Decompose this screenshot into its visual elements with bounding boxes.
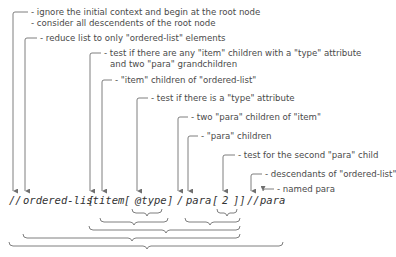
annotation-test-any-item-continued: and two "para" grandchildren (110, 59, 237, 69)
token-item: item (99, 194, 124, 206)
arrow-test-type (137, 98, 148, 191)
token-para-2: para (260, 194, 285, 206)
brace-ordered-list-predicate (89, 226, 240, 233)
token-open-bracket-1: [ (88, 194, 94, 206)
arrow-para-children (188, 136, 198, 191)
brace-ordered-list-step (23, 234, 240, 241)
annotation-all-descendents: - consider all descendents of the root n… (31, 18, 216, 28)
brace-whole-expression (9, 242, 283, 249)
arrow-test-any-item (90, 53, 101, 191)
annotation-test-type: - test if there is a "type" attribute (151, 93, 295, 103)
brace-item-predicate (100, 218, 168, 225)
brace-two (217, 209, 237, 216)
arrow-reduce-list (25, 38, 37, 191)
token-slash: / (177, 194, 183, 206)
token-open-bracket-2: [ (124, 194, 130, 206)
annotation-reduce-list: - reduce list to only "ordered-list" ele… (40, 33, 225, 43)
token-desc-slashes: // (247, 194, 260, 206)
brace-at-type (132, 209, 162, 216)
arrow-item-children (102, 80, 112, 191)
annotation-two-para: - two "para" children of "item" (191, 112, 321, 122)
annotation-test-any-item: - test if there are any "item" children … (104, 48, 361, 58)
token-root-slashes: // (9, 194, 22, 206)
token-close-bracket-2: ] (167, 194, 173, 206)
annotation-test-second: - test for the second "para" child (238, 150, 378, 160)
arrow-two-para (178, 117, 188, 191)
token-para: para (186, 194, 211, 206)
arrow-descendants (251, 174, 262, 191)
token-at-type: @type (135, 194, 167, 206)
arrow-named-para (263, 189, 274, 191)
annotation-named-para: - named para (277, 184, 335, 194)
token-two: 2 (222, 194, 228, 206)
token-open-bracket-3: [ (212, 194, 218, 206)
annotation-item-children: - "item" children of "ordered-list" (115, 75, 256, 85)
annotation-para-children: - "para" children (201, 131, 271, 141)
token-close-brackets: ]] (233, 194, 246, 206)
annotation-descendants: - descendants of "ordered-list" (265, 169, 396, 179)
annotation-ignore-context: - ignore the initial context and begin a… (31, 7, 260, 17)
brace-para-predicate (185, 218, 240, 225)
arrow-test-second (223, 155, 235, 191)
